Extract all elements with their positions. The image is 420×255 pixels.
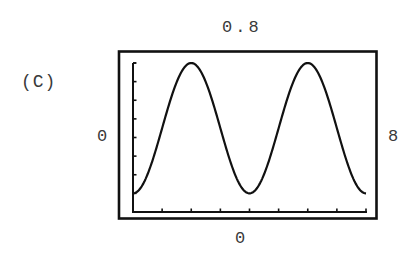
chart-plot xyxy=(0,0,420,255)
ticks xyxy=(133,63,366,212)
data-line xyxy=(133,63,366,193)
axes xyxy=(133,63,367,212)
axis-lines xyxy=(133,63,367,212)
